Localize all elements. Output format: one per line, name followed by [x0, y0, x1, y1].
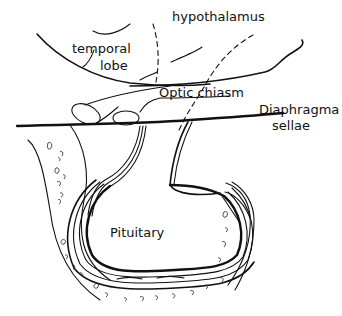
anatomy-diagram	[0, 0, 342, 316]
label-hypothalamus: hypothalamus	[172, 10, 265, 24]
optic-nerve-left	[85, 86, 170, 105]
sinus-lumen-bottom-1	[117, 278, 142, 280]
hypothalamus-upper-line	[171, 47, 202, 62]
temporal-lobe-detail	[140, 72, 157, 80]
label-temporal-lobe-line2: lobe	[100, 59, 128, 73]
label-sellae: sellae	[272, 119, 310, 133]
hypothalamus-base-line	[130, 40, 303, 86]
temporal-lobe-inner-curve	[93, 24, 130, 34]
label-optic-chiasm: Optic chiasm	[159, 86, 244, 100]
sinus-lumen-bottom-2	[157, 277, 184, 279]
label-temporal-lobe-line1: temporal	[72, 42, 131, 56]
diaphragma-sellae-line	[17, 113, 283, 126]
label-diaphragma: Diaphragma	[259, 103, 339, 117]
stalk-right-outer	[170, 122, 220, 194]
label-pituitary: Pituitary	[110, 226, 164, 240]
